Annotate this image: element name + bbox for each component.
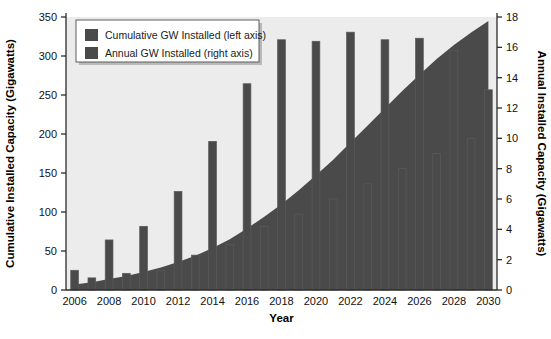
x-tick-label: 2020 xyxy=(304,295,328,307)
y-right-tick-label: 8 xyxy=(506,163,512,175)
annual-bar xyxy=(467,138,475,290)
y-right-axis-title: Annual Installed Capacity (Gigawatts) xyxy=(536,51,548,257)
x-tick-label: 2026 xyxy=(407,295,431,307)
x-tick-label: 2008 xyxy=(97,295,121,307)
y-left-tick-label: 100 xyxy=(39,206,57,218)
annual-bar xyxy=(416,38,424,290)
annual-bar xyxy=(243,84,251,290)
y-left-tick-label: 300 xyxy=(39,50,57,62)
x-tick-label: 2024 xyxy=(373,295,397,307)
legend-swatch xyxy=(85,29,98,41)
annual-bar xyxy=(295,214,303,290)
annual-bar xyxy=(364,184,372,290)
y-right-tick-label: 2 xyxy=(506,254,512,266)
annual-bar xyxy=(398,169,406,290)
annual-bar xyxy=(191,255,199,290)
y-right-tick-label: 4 xyxy=(506,223,512,235)
x-tick-label: 2006 xyxy=(62,295,86,307)
annual-bar xyxy=(105,240,113,290)
x-tick-label: 2016 xyxy=(235,295,259,307)
y-left-tick-label: 150 xyxy=(39,167,57,179)
y-left-tick-label: 0 xyxy=(51,284,57,296)
annual-bar xyxy=(278,40,286,290)
y-right-tick-label: 14 xyxy=(506,72,518,84)
annual-bar xyxy=(140,226,148,290)
annual-bar xyxy=(174,191,182,290)
y-left-tick-label: 350 xyxy=(39,11,57,23)
capacity-chart: 050100150200250300350 024681012141618 20… xyxy=(0,0,551,339)
y-left-axis-title: Cumulative Installed Capacity (Gigawatts… xyxy=(4,39,16,268)
chart-legend: Cumulative GW Installed (left axis)Annua… xyxy=(76,20,266,65)
x-tick-label: 2022 xyxy=(338,295,362,307)
annual-bar xyxy=(381,40,389,290)
legend-label: Cumulative GW Installed (left axis) xyxy=(105,29,266,41)
x-axis-title: Year xyxy=(269,312,294,324)
annual-bar xyxy=(347,32,355,290)
x-tick-label: 2028 xyxy=(442,295,466,307)
annual-bar xyxy=(450,50,458,290)
y-right-tick-label: 12 xyxy=(506,102,518,114)
y-left-tick-label: 50 xyxy=(45,245,57,257)
y-left-tick-label: 250 xyxy=(39,89,57,101)
y-right-tick-label: 16 xyxy=(506,41,518,53)
annual-bar xyxy=(312,41,320,290)
annual-bar xyxy=(122,273,130,290)
y-right-tick-label: 0 xyxy=(506,284,512,296)
y-right-tick-label: 10 xyxy=(506,132,518,144)
x-tick-label: 2018 xyxy=(269,295,293,307)
x-tick-label: 2012 xyxy=(166,295,190,307)
y-left-tick-label: 200 xyxy=(39,128,57,140)
x-tick-label: 2030 xyxy=(476,295,500,307)
annual-bar xyxy=(226,245,234,291)
annual-bar xyxy=(260,226,268,290)
y-right-tick-label: 6 xyxy=(506,193,512,205)
annual-bar xyxy=(209,141,217,290)
annual-bar xyxy=(157,270,165,290)
chart-container: 050100150200250300350 024681012141618 20… xyxy=(0,0,551,339)
annual-bar xyxy=(433,154,441,291)
legend-swatch xyxy=(85,47,98,59)
x-tick-label: 2010 xyxy=(131,295,155,307)
annual-bar xyxy=(88,278,96,290)
legend-label: Annual GW Installed (right axis) xyxy=(105,47,253,59)
annual-bar xyxy=(485,90,493,290)
x-tick-label: 2014 xyxy=(200,295,224,307)
y-right-tick-label: 18 xyxy=(506,11,518,23)
annual-bar xyxy=(329,199,337,290)
annual-bar xyxy=(71,270,79,290)
